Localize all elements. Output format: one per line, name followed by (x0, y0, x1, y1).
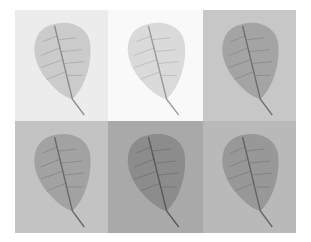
leaf-icon (108, 121, 203, 233)
leaf-icon (15, 10, 108, 121)
leaf-icon (203, 10, 296, 121)
leaf-panel-r1c2 (108, 10, 203, 121)
leaf-panel-r2c1 (15, 121, 108, 233)
leaf-image-grid (15, 10, 296, 233)
leaf-panel-r1c3 (203, 10, 296, 121)
leaf-icon (108, 10, 203, 121)
leaf-icon (15, 121, 108, 233)
leaf-icon (203, 121, 296, 233)
leaf-panel-r2c2 (108, 121, 203, 233)
leaf-panel-r1c1 (15, 10, 108, 121)
leaf-panel-r2c3 (203, 121, 296, 233)
